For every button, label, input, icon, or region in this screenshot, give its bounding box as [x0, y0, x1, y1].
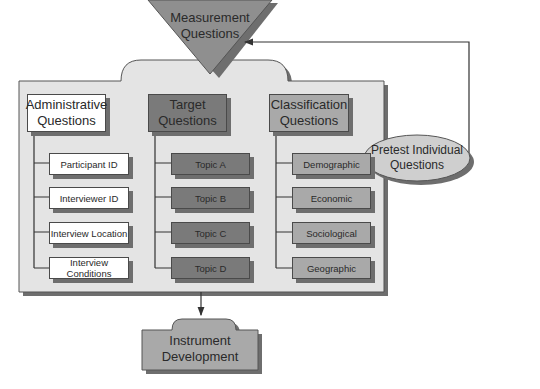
target-questions-header: Target Questions	[148, 94, 227, 132]
item-topic-d: Topic D	[171, 257, 250, 279]
item-topic-c: Topic C	[171, 222, 250, 244]
item-interviewer-id: Interviewer ID	[49, 187, 129, 209]
item-interview-conditions: Interview Conditions	[49, 257, 129, 279]
administrative-questions-header: Administrative Questions	[27, 94, 106, 132]
pretest-label: Pretest Individual Questions	[367, 143, 467, 173]
instrument-label: Instrument Development	[142, 333, 258, 365]
item-demographic: Demographic	[292, 153, 371, 175]
measurement-label: Measurement Questions	[160, 10, 260, 42]
classification-questions-header: Classification Questions	[269, 94, 349, 132]
item-topic-b: Topic B	[171, 187, 250, 209]
item-topic-a: Topic A	[171, 153, 250, 175]
item-geographic: Geographic	[292, 257, 371, 279]
item-interview-location: Interview Location	[49, 222, 129, 244]
item-participant-id: Participant ID	[49, 153, 129, 175]
item-economic: Economic	[292, 187, 371, 209]
item-sociological: Sociological	[292, 222, 371, 244]
